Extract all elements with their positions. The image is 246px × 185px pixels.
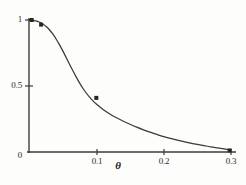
data-point-marker xyxy=(39,23,43,27)
x-tick-label-0-3: 0.3 xyxy=(218,156,244,166)
plot-canvas xyxy=(0,0,246,185)
data-point-markers xyxy=(30,18,232,152)
chart-figure: 1 0.5 0 0.1 0.2 0.3 θ xyxy=(0,0,246,185)
y-tick-label-1: 1 xyxy=(6,14,22,24)
data-point-marker xyxy=(30,18,34,22)
data-curve xyxy=(29,20,231,150)
x-axis-label: θ xyxy=(106,159,130,171)
y-tick-label-0: 0 xyxy=(6,150,22,160)
data-point-marker xyxy=(94,96,98,100)
data-point-marker xyxy=(228,148,232,152)
y-tick-label-0-5: 0.5 xyxy=(1,80,22,90)
x-tick-label-0-2: 0.2 xyxy=(151,156,177,166)
